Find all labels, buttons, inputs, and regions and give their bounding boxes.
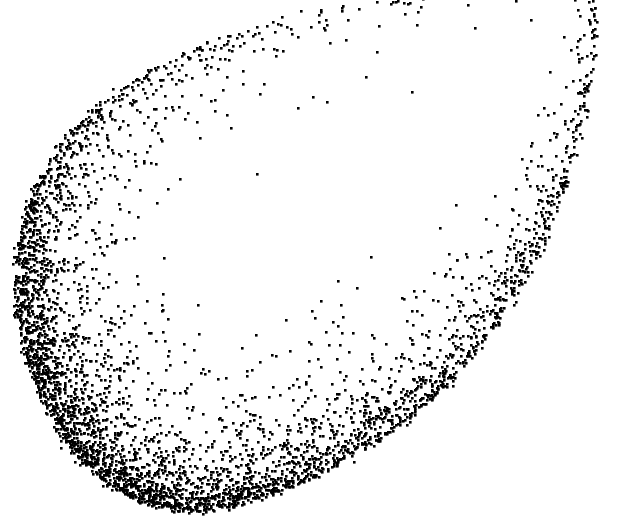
scatter-plot-figure xyxy=(0,0,627,528)
scatter-plot-canvas xyxy=(0,0,627,528)
